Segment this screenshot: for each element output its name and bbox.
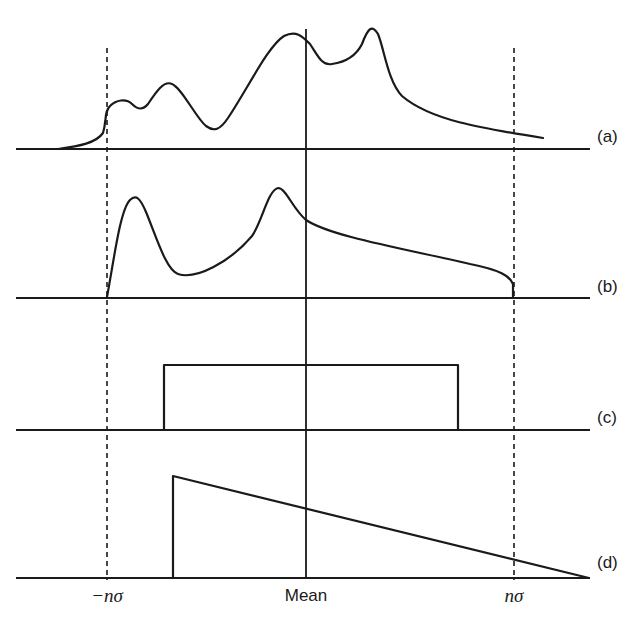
panel-b-label: (b) <box>597 277 618 296</box>
panel-a-curve <box>58 29 543 149</box>
panel-c-label: (c) <box>597 408 617 427</box>
panel-b-curve <box>107 188 513 298</box>
panel-a-label: (a) <box>597 127 618 146</box>
distribution-diagram: (a) (b) (c) (d) −nσ Mean nσ <box>0 0 638 618</box>
mean-label: Mean <box>285 586 328 605</box>
panel-c-rectangle <box>164 365 458 430</box>
panel-d-triangle <box>173 476 589 578</box>
panel-c: (c) <box>16 365 617 430</box>
n-sigma-label: nσ <box>505 585 525 606</box>
panel-d-label: (d) <box>597 553 618 572</box>
minus-n-sigma-label: −nσ <box>91 585 123 606</box>
